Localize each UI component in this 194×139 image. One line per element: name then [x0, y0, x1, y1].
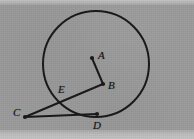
- shape-layer: [25, 11, 149, 117]
- point-label-c: C: [13, 107, 20, 118]
- point-marker-a: [90, 56, 94, 60]
- main-circle: [43, 11, 149, 117]
- point-marker-b: [101, 82, 105, 86]
- segment-AB: [92, 58, 103, 84]
- point-marker-c: [23, 115, 27, 119]
- point-label-a: A: [98, 50, 105, 61]
- geometry-figure: ABCDE: [0, 0, 194, 139]
- point-label-e: E: [58, 84, 65, 95]
- point-marker-d: [95, 112, 99, 116]
- point-label-d: D: [93, 120, 101, 131]
- point-label-b: B: [108, 80, 115, 91]
